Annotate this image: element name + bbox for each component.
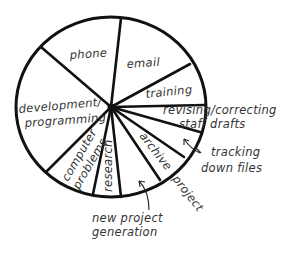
label-new-project-line1: new project (92, 211, 163, 225)
label-tracking-line2: down files (201, 161, 262, 175)
pie-chart: phone email training revising/correcting… (0, 0, 298, 256)
label-archive: archive (137, 129, 175, 173)
label-phone: phone (68, 45, 107, 62)
label-email: email (126, 55, 161, 71)
label-new-project-line2: generation (92, 225, 158, 239)
label-archive-project: project (169, 171, 207, 214)
label-tracking-line1: tracking (211, 145, 260, 159)
pie-center-hub (108, 104, 115, 111)
label-revising-line2: staff drafts (179, 117, 246, 131)
label-revising-line1: revising/correcting (163, 103, 277, 117)
arrow-new-project-generation (139, 181, 149, 210)
slice-boundary-line (111, 18, 121, 107)
